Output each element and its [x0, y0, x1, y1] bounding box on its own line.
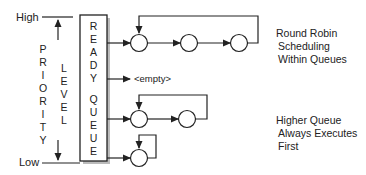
svg-text:P: P	[39, 43, 46, 55]
svg-text:Y: Y	[39, 134, 46, 146]
svg-text:First: First	[278, 140, 298, 152]
svg-text:E: E	[90, 145, 97, 157]
svg-text:L: L	[61, 114, 67, 126]
svg-text:Scheduling: Scheduling	[278, 40, 330, 52]
svg-text:Within Queues: Within Queues	[278, 53, 347, 65]
svg-text:Y: Y	[90, 72, 97, 84]
round-robin-annotation: Round Robin Scheduling Within Queues	[276, 27, 347, 65]
priority-label: P R I O R I T Y	[39, 43, 47, 146]
level-label: L E V E L	[60, 62, 67, 126]
svg-text:U: U	[90, 106, 98, 118]
process-node	[231, 35, 248, 52]
svg-text:E: E	[90, 33, 97, 45]
svg-text:R: R	[39, 56, 47, 68]
svg-text:E: E	[90, 119, 97, 131]
process-node	[131, 35, 148, 52]
svg-text:O: O	[39, 82, 47, 94]
svg-text:T: T	[40, 121, 47, 133]
higher-queue-annotation: Higher Queue Always Executes First	[276, 114, 357, 152]
queue-3	[107, 95, 207, 128]
queue-2: <empty>	[107, 73, 171, 84]
high-label: High	[16, 11, 39, 23]
low-label: Low	[19, 156, 39, 168]
svg-text:Always Executes: Always Executes	[278, 127, 357, 139]
svg-text:E: E	[60, 75, 67, 87]
svg-text:R: R	[39, 95, 47, 107]
svg-text:I: I	[42, 108, 45, 120]
svg-text:D: D	[90, 59, 98, 71]
process-node	[131, 111, 148, 128]
svg-text:V: V	[60, 88, 67, 100]
svg-text:I: I	[42, 69, 45, 81]
empty-label: <empty>	[134, 73, 171, 84]
svg-text:U: U	[90, 132, 98, 144]
svg-text:E: E	[60, 101, 67, 113]
svg-text:Higher Queue: Higher Queue	[276, 114, 342, 126]
queue-4	[107, 135, 156, 167]
process-node	[179, 111, 196, 128]
queue-1	[107, 16, 258, 52]
svg-text:R: R	[90, 20, 98, 32]
priority-queue-diagram: High Low P R I O R I T Y L E V E L R E A…	[0, 0, 366, 175]
process-node	[181, 35, 198, 52]
svg-text:Q: Q	[89, 93, 97, 105]
svg-text:L: L	[61, 62, 67, 74]
svg-text:Round Robin: Round Robin	[276, 27, 337, 39]
svg-text:A: A	[90, 46, 97, 58]
process-node	[131, 150, 148, 167]
